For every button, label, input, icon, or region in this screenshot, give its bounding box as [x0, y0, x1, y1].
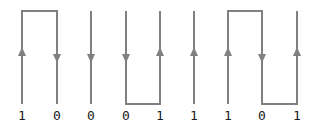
arrow-down-icon-4 — [122, 54, 130, 63]
arrow-down-icon-2 — [53, 54, 61, 63]
arrow-up-icon-9 — [293, 47, 301, 56]
bit-label-6: 1 — [184, 108, 204, 124]
bit-label-row: 1 0 0 0 1 1 1 0 1 — [0, 108, 318, 129]
arrow-up-icon-1 — [18, 47, 26, 56]
bit-label-4: 0 — [116, 108, 136, 124]
bit-label-1: 1 — [12, 108, 32, 124]
bit-label-5: 1 — [150, 108, 170, 124]
arrow-up-icon-7 — [224, 47, 232, 56]
bit-label-7: 1 — [218, 108, 238, 124]
arrow-down-icon-3 — [87, 54, 95, 63]
arrow-up-icon-5 — [156, 47, 164, 56]
bit-label-9: 1 — [287, 108, 307, 124]
bit-label-2: 0 — [47, 108, 67, 124]
signal-encoding-diagram: 1 0 0 0 1 1 1 0 1 — [0, 0, 318, 129]
bit-label-3: 0 — [81, 108, 101, 124]
bit-label-8: 0 — [252, 108, 272, 124]
arrow-down-icon-8 — [258, 54, 266, 63]
arrow-up-icon-6 — [190, 47, 198, 56]
